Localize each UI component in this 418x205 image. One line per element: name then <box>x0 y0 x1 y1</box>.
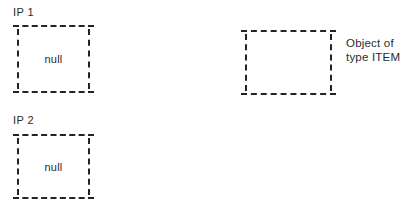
slot-value-ip1: null <box>13 53 94 66</box>
box-edge-bottom <box>13 91 94 93</box>
box-edge-bottom <box>13 197 94 199</box>
box-edge-top <box>241 30 336 32</box>
box-edge-top <box>13 134 94 136</box>
diagram-canvas: IP 1 null IP 2 null Object of type ITEM <box>0 0 418 205</box>
slot-label-ip2: IP 2 <box>13 114 34 127</box>
box-edge-left <box>245 34 247 91</box>
slot-box-ip1[interactable]: null <box>13 25 94 93</box>
slot-box-ip2[interactable]: null <box>13 134 94 199</box>
object-box-annotation: Object of type ITEM <box>346 36 400 64</box>
slot-value-ip2: null <box>13 160 94 173</box>
object-box-item[interactable] <box>241 30 336 95</box>
slot-label-ip1: IP 1 <box>13 6 34 19</box>
box-edge-top <box>13 25 94 27</box>
box-edge-bottom <box>241 93 336 95</box>
box-edge-right <box>330 34 332 91</box>
